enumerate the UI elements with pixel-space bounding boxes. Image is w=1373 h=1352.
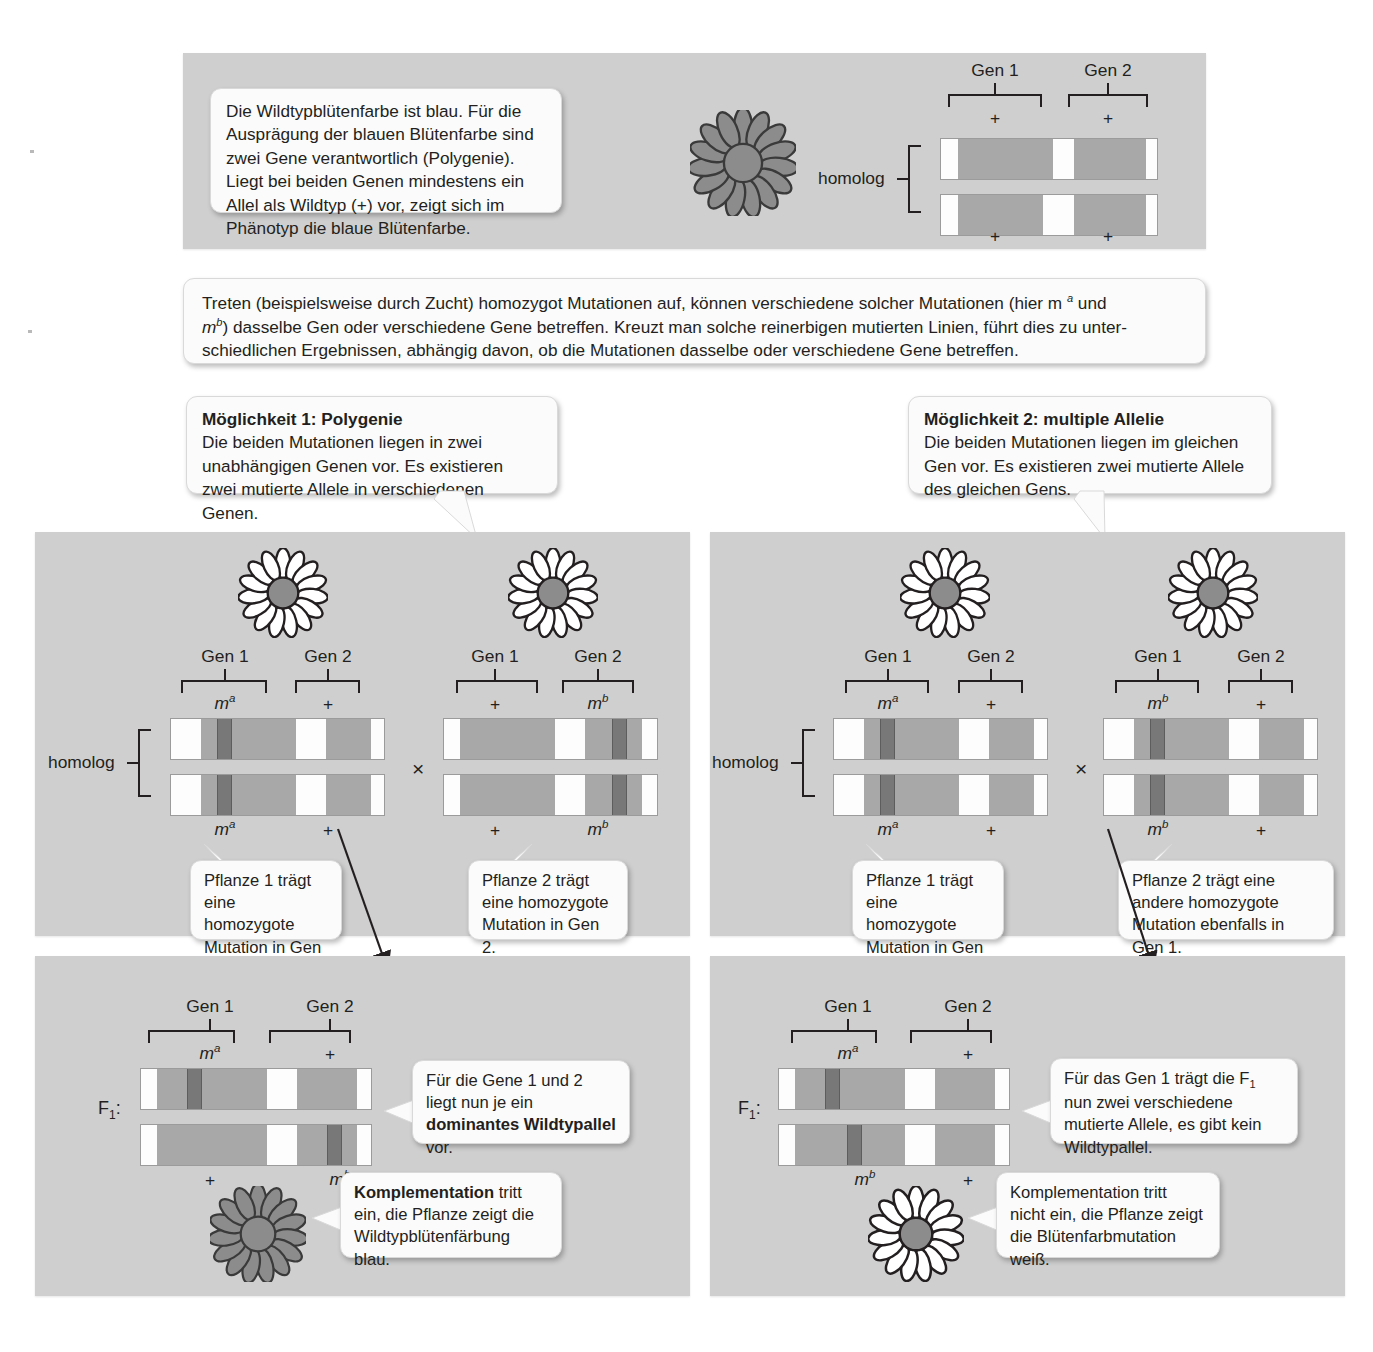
- gene2-segment: [1259, 775, 1304, 815]
- right-f1-gen2-label: Gen 2: [928, 996, 1008, 1017]
- gene1-segment: [157, 1069, 267, 1109]
- option1-box: Möglichkeit 1: Polygenie Die beiden Muta…: [186, 396, 558, 494]
- gene2-segment: [989, 775, 1034, 815]
- chromosome-top: [140, 1068, 372, 1110]
- chromosome-bottom: [833, 774, 1048, 816]
- mutation-band-mb: [1150, 775, 1165, 815]
- chromosome-group-right-f1: [778, 1068, 1010, 1166]
- right-f1-gen2-brace-stem: [967, 1019, 969, 1030]
- chromosome-group-left-p1: [170, 718, 385, 816]
- right-homolog-bracket-stem: [791, 762, 802, 764]
- mutation-band-mb: [1150, 719, 1165, 759]
- figure-root: Die Wildtypblütenfarbe ist blau. Für die…: [0, 0, 1373, 1352]
- right-p1-gen2-label: Gen 2: [951, 646, 1031, 667]
- gene1-segment: [1134, 719, 1229, 759]
- mutation-note-line3: schiedlichen Ergebnissen, abhängig davon…: [202, 339, 1187, 362]
- gene1-segment: [795, 1069, 905, 1109]
- chromosome-top: [443, 718, 658, 760]
- mutation-band-ma: [217, 775, 232, 815]
- gen1-brace-stem: [994, 83, 996, 94]
- gene2-segment: [935, 1125, 995, 1165]
- homolog-bracket-stem: [897, 178, 908, 180]
- mutation-note-line1: Treten (beispielsweise durch Zucht) homo…: [202, 291, 1187, 315]
- chromosome-bottom: [443, 774, 658, 816]
- mutation-band-mb: [612, 719, 627, 759]
- gen2-top-allele: +: [1068, 108, 1148, 129]
- chromosome-top: [940, 138, 1158, 180]
- left-f1-callout: Für die Gene 1 und 2 liegt nun je ein do…: [412, 1060, 630, 1144]
- chromosome-group-left-p2: [443, 718, 658, 816]
- left-f1-gen2-label: Gen 2: [290, 996, 370, 1017]
- mutation-band-ma: [880, 775, 895, 815]
- chromosome-bottom: [170, 774, 385, 816]
- left-f1-gen1-brace-stem: [209, 1019, 211, 1030]
- left-p1-gen1-label: Gen 1: [185, 646, 265, 667]
- chromosome-group-intro: [940, 138, 1158, 236]
- gen1-label: Gen 1: [955, 60, 1035, 81]
- left-f1-gen2-brace: [269, 1030, 351, 1043]
- left-f1-callout-pre: Für die Gene 1 und 2 liegt nun je ein: [426, 1071, 583, 1112]
- mutation-band-ma: [825, 1069, 840, 1109]
- right-p1-gen1-top-allele: ma: [848, 692, 928, 714]
- right-p1-gen1-bottom-allele: ma: [848, 818, 928, 840]
- mutation-note-line2: mb) dasselbe Gen oder verschiedene Gene …: [202, 315, 1187, 339]
- right-result-callout: Komplementation tritt nicht ein, die Pfl…: [996, 1172, 1220, 1258]
- right-f1-gen2-top-allele: +: [928, 1044, 1008, 1065]
- left-homolog-bracket-stem: [127, 762, 138, 764]
- right-f1-line1sub: 1: [1249, 1078, 1255, 1090]
- flower-left-plant2: [508, 548, 598, 638]
- gene2-segment: [1259, 719, 1304, 759]
- right-f1-gen1-brace-stem: [847, 1019, 849, 1030]
- gene1-segment: [1134, 775, 1229, 815]
- chromosome-top: [1103, 718, 1318, 760]
- left-p1-gen2-brace-stem: [327, 669, 329, 680]
- right-p2-gen1-brace-stem: [1157, 669, 1159, 680]
- right-p1-gen2-bottom-allele: +: [951, 820, 1031, 841]
- left-callout-plant1: Pflanze 1 trägt eine homozygote Mutation…: [190, 860, 342, 940]
- left-p2-gen1-brace: [456, 680, 538, 693]
- left-p2-gen2-top-allele: mb: [558, 692, 638, 714]
- gen2-brace-stem: [1107, 83, 1109, 94]
- left-result-bold: Komplementation: [354, 1183, 494, 1202]
- chromosome-top: [778, 1068, 1010, 1110]
- chromosome-top: [833, 718, 1048, 760]
- chromosome-bottom: [1103, 774, 1318, 816]
- right-f1-callout: Für das Gen 1 trägt die F1 nun zwei vers…: [1050, 1058, 1298, 1144]
- gene1-segment: [864, 775, 959, 815]
- scan-speck-left2: [28, 330, 32, 333]
- homolog-bracket: [908, 145, 921, 213]
- left-f1-gen2-brace-stem: [329, 1019, 331, 1030]
- gene2-segment: [1074, 139, 1146, 179]
- gene1-segment: [864, 719, 959, 759]
- left-p2-gen1-brace-stem: [494, 669, 496, 680]
- flower-right-result-mutant: [868, 1186, 964, 1282]
- flower-left-result-wildtype: [210, 1186, 306, 1282]
- left-f1-gen1-top-allele: ma: [170, 1042, 250, 1064]
- gene2-segment: [326, 719, 371, 759]
- gene1-segment: [201, 775, 296, 815]
- flower-right-plant1: [900, 548, 990, 638]
- right-p2-gen2-brace: [1228, 680, 1293, 693]
- left-p2-gen2-brace-stem: [597, 669, 599, 680]
- left-p2-gen1-top-allele: +: [455, 694, 535, 715]
- chromosome-top: [170, 718, 385, 760]
- gene1-segment: [201, 719, 296, 759]
- left-f1-callout-bold: dominantes Wildtypallel: [426, 1115, 616, 1134]
- chromosome-bottom: [140, 1124, 372, 1166]
- left-p1-gen2-label: Gen 2: [288, 646, 368, 667]
- option2-box: Möglichkeit 2: multiple Allelie Die beid…: [908, 396, 1272, 494]
- right-f1-gen1-top-allele: ma: [808, 1042, 888, 1064]
- left-f1-label: F1:: [98, 1098, 121, 1122]
- left-p1-gen1-brace-stem: [224, 669, 226, 680]
- right-p2-gen1-top-allele: mb: [1118, 692, 1198, 714]
- chromosome-bottom: [778, 1124, 1010, 1166]
- mutation-band-ma: [217, 719, 232, 759]
- scan-speck-left: [30, 150, 34, 153]
- left-result-callout: Komplementation tritt ein, die Pflanze z…: [340, 1172, 562, 1258]
- intro-textbox: Die Wildtypblütenfarbe ist blau. Für die…: [210, 88, 562, 213]
- right-p2-gen2-label: Gen 2: [1221, 646, 1301, 667]
- right-f1-line1a: Für das Gen 1 trägt die F: [1064, 1069, 1249, 1088]
- gene2-segment: [326, 775, 371, 815]
- right-p1-gen1-brace-stem: [887, 669, 889, 680]
- mutation-band-mb: [847, 1125, 862, 1165]
